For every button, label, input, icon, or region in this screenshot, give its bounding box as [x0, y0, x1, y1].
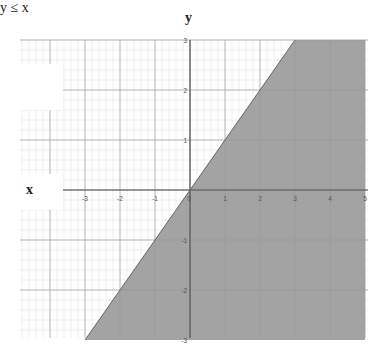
svg-text:1: 1: [223, 195, 227, 202]
svg-text:-1: -1: [181, 237, 187, 244]
svg-text:3: 3: [293, 195, 297, 202]
svg-text:4: 4: [328, 195, 332, 202]
svg-text:2: 2: [183, 87, 187, 94]
x-axis-title: x: [26, 182, 33, 198]
svg-text:0: 0: [187, 195, 191, 202]
svg-text:-3: -3: [181, 337, 187, 344]
svg-text:3: 3: [183, 37, 187, 44]
svg-text:-1: -1: [152, 195, 158, 202]
svg-text:-2: -2: [181, 287, 187, 294]
svg-text:-3: -3: [82, 195, 88, 202]
svg-text:2: 2: [258, 195, 262, 202]
y-axis-title: y: [185, 10, 192, 26]
svg-text:5: 5: [363, 195, 367, 202]
inequality-label-box: [0, 64, 63, 110]
svg-text:1: 1: [183, 137, 187, 144]
svg-text:-2: -2: [117, 195, 123, 202]
